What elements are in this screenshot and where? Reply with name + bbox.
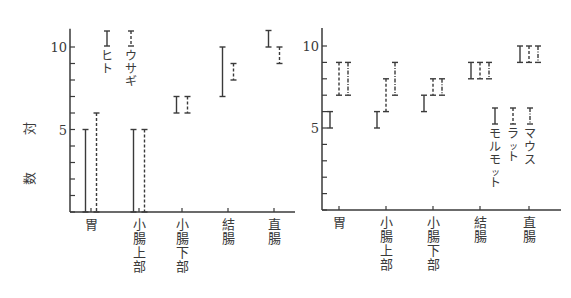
range-bar: [383, 79, 389, 112]
y-tick-label: 10: [50, 40, 67, 55]
svg-text:ト: ト: [489, 176, 501, 190]
legend-marker: [104, 31, 110, 46]
svg-text:ッ: ッ: [509, 141, 518, 151]
range-bar: [439, 79, 445, 95]
range-bar: [468, 62, 474, 78]
range-bar: [131, 130, 137, 213]
svg-text:上: 上: [380, 243, 393, 258]
svg-text:ギ: ギ: [125, 75, 137, 89]
svg-text:部: 部: [176, 259, 189, 274]
x-tick-label: 直腸: [268, 217, 281, 246]
svg-text:ル: ル: [489, 140, 501, 154]
legend-marker: [527, 108, 533, 124]
y-tick-label: 5: [311, 121, 319, 136]
svg-text:下: 下: [176, 245, 189, 260]
range-bar: [421, 95, 427, 111]
svg-text:ヒ: ヒ: [101, 49, 113, 63]
svg-text:腸: 腸: [427, 229, 440, 244]
range-bar: [392, 62, 398, 95]
x-tick-label: 小腸下部: [176, 217, 189, 274]
svg-text:マ: マ: [524, 127, 536, 141]
range-bar: [535, 46, 541, 62]
left-chart-human-rabbit: 510数対胃小腸上部小腸下部結腸直腸ヒトウサギ: [22, 29, 295, 274]
range-bar: [477, 62, 483, 78]
x-tick-label: 胃: [85, 217, 98, 232]
svg-text:腸: 腸: [474, 229, 487, 244]
x-tick-label: 小腸上部: [380, 215, 393, 272]
svg-text:腸: 腸: [268, 231, 281, 246]
svg-text:部: 部: [133, 259, 146, 274]
svg-text:ト: ト: [101, 62, 113, 76]
svg-text:結: 結: [222, 217, 235, 232]
legend-label: ウサギ: [125, 49, 137, 89]
legend-marker: [510, 108, 516, 124]
range-bar: [83, 130, 89, 213]
range-bar: [231, 64, 237, 81]
range-bar: [517, 46, 523, 62]
range-bar: [374, 112, 380, 128]
range-bar: [277, 47, 283, 64]
svg-text:部: 部: [380, 257, 393, 272]
y-tick-label: 10: [302, 39, 319, 54]
range-bar: [345, 62, 351, 95]
svg-text:モ: モ: [489, 127, 501, 141]
legend-label: ラット: [507, 127, 519, 164]
chart-canvas: 510数対胃小腸上部小腸下部結腸直腸ヒトウサギ 510胃小腸上部小腸下部結腸直腸…: [0, 0, 571, 298]
range-bar: [142, 130, 148, 213]
svg-text:ス: ス: [524, 153, 536, 167]
legend-label: マウス: [524, 127, 536, 167]
x-tick-label: 直腸: [523, 215, 536, 244]
right-chart-rodents: 510胃小腸上部小腸下部結腸直腸モルモットラットマウス: [302, 28, 561, 272]
legend-marker: [492, 108, 498, 124]
svg-text:モ: モ: [489, 153, 501, 167]
range-bar: [266, 31, 272, 48]
svg-text:小: 小: [380, 215, 393, 230]
svg-text:小: 小: [176, 217, 189, 232]
svg-text:腸: 腸: [523, 229, 536, 244]
svg-text:サ: サ: [125, 62, 137, 76]
svg-text:上: 上: [133, 245, 146, 260]
x-tick-label: 結腸: [474, 215, 487, 244]
svg-text:数: 数: [22, 172, 37, 185]
svg-text:ウ: ウ: [524, 140, 536, 154]
range-bar: [336, 62, 342, 95]
svg-text:ト: ト: [507, 150, 519, 164]
svg-text:ッ: ッ: [491, 167, 500, 177]
x-tick-label: 胃: [333, 215, 346, 230]
range-bar: [94, 113, 100, 212]
range-bar: [220, 47, 226, 97]
range-bar: [327, 112, 333, 128]
svg-text:小: 小: [133, 217, 146, 232]
svg-text:直: 直: [268, 217, 281, 232]
y-tick-label: 5: [59, 123, 67, 138]
svg-text:腸: 腸: [380, 229, 393, 244]
svg-text:胃: 胃: [333, 215, 346, 230]
svg-text:胃: 胃: [85, 217, 98, 232]
svg-text:腸: 腸: [133, 231, 146, 246]
figure: 510数対胃小腸上部小腸下部結腸直腸ヒトウサギ 510胃小腸上部小腸下部結腸直腸…: [0, 0, 571, 298]
range-bar: [430, 79, 436, 95]
range-bar: [526, 46, 532, 62]
svg-text:結: 結: [474, 215, 487, 230]
range-bar: [174, 97, 180, 114]
range-bar: [486, 62, 492, 78]
svg-text:ラ: ラ: [507, 127, 519, 141]
legend-label: ヒト: [101, 49, 113, 76]
legend-marker: [128, 31, 134, 46]
x-tick-label: 結腸: [222, 217, 235, 246]
svg-text:腸: 腸: [176, 231, 189, 246]
y-axis-label: 数対: [22, 122, 37, 185]
svg-text:直: 直: [523, 215, 536, 230]
x-tick-label: 小腸上部: [133, 217, 146, 274]
svg-text:下: 下: [427, 243, 440, 258]
x-tick-label: 小腸下部: [427, 215, 440, 272]
range-bar: [185, 97, 191, 114]
svg-text:ウ: ウ: [125, 49, 137, 63]
svg-text:小: 小: [427, 215, 440, 230]
legend-label: モルモット: [489, 127, 501, 190]
svg-text:対: 対: [22, 122, 37, 135]
svg-text:部: 部: [427, 257, 440, 272]
svg-text:腸: 腸: [222, 231, 235, 246]
